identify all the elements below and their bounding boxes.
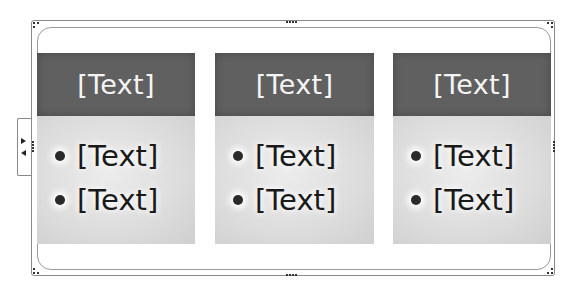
diagram-column-1[interactable]: [Text] [Text] [Text]: [37, 53, 195, 244]
column-body-shape[interactable]: [Text] [Text]: [393, 116, 551, 244]
bullet-text[interactable]: [Text]: [433, 183, 514, 217]
bullet-item[interactable]: [Text]: [37, 134, 195, 178]
resize-handle-left[interactable]: [32, 141, 34, 152]
bullet-text[interactable]: [Text]: [77, 183, 158, 217]
resize-handle-top[interactable]: [286, 21, 297, 23]
bullet-icon: [411, 151, 421, 161]
bullet-icon: [55, 151, 65, 161]
column-body-shape[interactable]: [Text] [Text]: [215, 116, 374, 244]
bullet-icon: [55, 195, 65, 205]
bullet-icon: [233, 195, 243, 205]
resize-handle-top-left[interactable]: [33, 22, 39, 28]
column-header-text[interactable]: [Text]: [433, 69, 510, 100]
column-header-text[interactable]: [Text]: [77, 69, 154, 100]
bullet-text[interactable]: [Text]: [255, 139, 336, 173]
diagram-column-3[interactable]: [Text] [Text] [Text]: [393, 53, 551, 244]
resize-handle-bottom-left[interactable]: [33, 268, 39, 274]
diagram-column-2[interactable]: [Text] [Text] [Text]: [215, 53, 374, 244]
bullet-item[interactable]: [Text]: [215, 134, 374, 178]
collapse-arrow-icon: [21, 150, 26, 156]
bullet-item[interactable]: [Text]: [215, 178, 374, 222]
bullet-item[interactable]: [Text]: [37, 178, 195, 222]
column-header-shape[interactable]: [Text]: [37, 53, 195, 116]
column-header-text[interactable]: [Text]: [256, 69, 333, 100]
resize-handle-bottom[interactable]: [286, 274, 297, 276]
bullet-text[interactable]: [Text]: [255, 183, 336, 217]
resize-handle-bottom-right[interactable]: [547, 268, 553, 274]
column-body-shape[interactable]: [Text] [Text]: [37, 116, 195, 244]
bullet-text[interactable]: [Text]: [433, 139, 514, 173]
expand-arrow-icon: [21, 138, 26, 144]
bullet-item[interactable]: [Text]: [393, 178, 551, 222]
bullet-icon: [233, 151, 243, 161]
column-header-shape[interactable]: [Text]: [215, 53, 374, 116]
column-header-shape[interactable]: [Text]: [393, 53, 551, 116]
bullet-icon: [411, 195, 421, 205]
resize-handle-right[interactable]: [553, 141, 555, 152]
bullet-item[interactable]: [Text]: [393, 134, 551, 178]
bullet-text[interactable]: [Text]: [77, 139, 158, 173]
text-pane-toggle-button[interactable]: [17, 118, 31, 176]
resize-handle-top-right[interactable]: [547, 22, 553, 28]
